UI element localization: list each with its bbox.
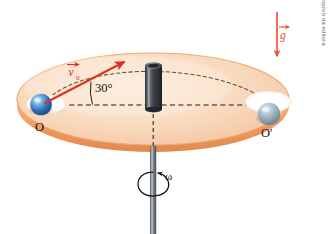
gravity-label: g — [280, 29, 286, 42]
angle-label: 30° — [95, 81, 113, 95]
label-point-o-prime: O' — [261, 126, 272, 140]
omega-label: ω — [165, 170, 172, 182]
rotation-axis-rod-visible — [150, 146, 156, 234]
central-cylinder-hub — [145, 62, 162, 112]
blue-sphere-at-o — [30, 94, 52, 116]
gray-sphere-at-o-prime — [258, 103, 280, 125]
velocity-label-subscript: 0 — [76, 74, 80, 82]
label-point-o: O — [35, 120, 44, 134]
image-credit: Banco de imagens/Arquivo da editora — [318, 0, 330, 62]
gravity-vector-g: g — [277, 12, 289, 56]
physics-diagram-rotating-disk: v 0 30° O O' g ω — [0, 0, 331, 234]
velocity-label-v: v — [69, 66, 75, 78]
